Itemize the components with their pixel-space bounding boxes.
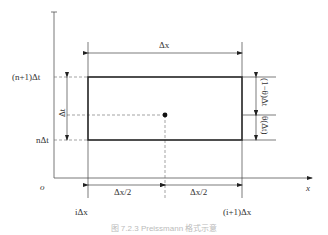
width-label: Δx <box>159 40 169 50</box>
x-label-right: (i+1)Δx <box>223 207 251 217</box>
height-label: Δt <box>57 109 67 117</box>
y-label-bottom: nΔt <box>36 135 49 145</box>
figure-caption: 图 7.2.3 Preissmann 格式示意 <box>0 222 328 233</box>
x-axis-label: x <box>306 183 310 193</box>
extension-lines <box>88 42 276 198</box>
y-axis <box>51 12 57 178</box>
origin-label: o <box>40 182 45 192</box>
guide-lines <box>54 77 165 198</box>
y-label-top: (n+1)Δt <box>12 72 40 82</box>
center-point <box>163 113 168 118</box>
dimension-lines <box>67 53 256 185</box>
lower-right-label: θ(Δt) <box>260 116 270 135</box>
diagram-canvas <box>0 0 328 235</box>
upper-right-label: (1−θ)Δt <box>260 78 270 106</box>
half-width-right-label: Δx/2 <box>190 187 207 197</box>
half-width-left-label: Δx/2 <box>114 187 131 197</box>
x-label-left: iΔx <box>75 207 88 217</box>
